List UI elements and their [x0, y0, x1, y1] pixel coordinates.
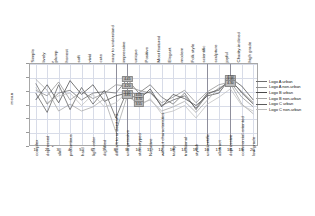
bottom-category-label: slim — [58, 148, 63, 156]
top-category-labels: Simplelivelyplumphonestsoftvividcuteeasy… — [29, 0, 258, 63]
series-line — [36, 88, 254, 118]
legend-color-swatch — [256, 81, 267, 82]
top-category-label: modern — [179, 47, 184, 62]
bottom-category-label: stereotyped — [138, 133, 143, 156]
legend-item-label: Logo C urban — [269, 102, 293, 106]
legend-color-swatch — [256, 109, 267, 110]
legend-item[interactable]: Logo C non-urban — [256, 107, 314, 113]
data-value-label: 3.85 — [122, 93, 132, 99]
top-category-label: unique — [133, 49, 138, 62]
data-value-label: 4.20 — [122, 83, 132, 89]
top-category-label: Elegant — [168, 47, 173, 62]
legend-item-label: Logo A non-urban — [269, 85, 301, 89]
top-category-label: lively — [42, 52, 47, 62]
top-category-label: sculpture — [213, 44, 218, 62]
bottom-category-label: tacky — [172, 146, 177, 156]
plot-area: 4.454.203.953.854.053.703.554.504.404.30 — [29, 63, 258, 146]
top-category-label: high grade — [248, 41, 253, 62]
top-category-label: scientific — [202, 45, 207, 62]
top-category-label: joyful — [225, 52, 230, 62]
legend-item-label: Logo C non-urban — [269, 108, 301, 112]
legend: Logo A urbanLogo A non-urbanLogo B urban… — [256, 79, 314, 113]
bottom-category-label: depressive — [229, 135, 234, 156]
bottom-category-labels: 1234567891011121314151617181920complexde… — [29, 147, 258, 216]
top-category-label: easy to understand — [110, 25, 115, 62]
bottom-category-label: depressed — [46, 135, 51, 156]
bottom-category-label: without characteristics — [161, 113, 166, 156]
legend-color-swatch — [256, 92, 267, 93]
series-lines — [30, 64, 258, 146]
legend-item-label: Logo A urban — [269, 80, 293, 84]
series-line — [36, 79, 254, 118]
legend-item-label: Logo B non-urban — [269, 97, 301, 101]
top-category-label: Most featured — [156, 35, 161, 62]
top-category-label: Charity-inclined — [236, 32, 241, 62]
bottom-category-label: Negative — [149, 139, 154, 156]
bottom-category-label: low grade — [252, 137, 257, 156]
bottom-category-label: dignified — [103, 140, 108, 156]
top-category-label: cute — [99, 54, 104, 62]
data-value-label: 4.45 — [122, 76, 132, 82]
data-value-label: 4.30 — [225, 80, 235, 86]
top-category-label: Folk style — [191, 43, 196, 62]
bottom-category-label: light color — [92, 137, 97, 156]
top-category-label: honest — [65, 49, 70, 62]
legend-color-swatch — [256, 104, 267, 105]
top-category-label: impressive — [122, 41, 127, 62]
top-category-label: soft — [76, 55, 81, 62]
data-value-label: 3.55 — [134, 101, 144, 107]
bottom-category-label: pretentious — [69, 134, 74, 156]
legend-item-label: Logo B urban — [269, 91, 293, 95]
legend-color-swatch — [256, 87, 267, 88]
bottom-category-label: stylish — [195, 144, 200, 156]
bottom-category-label: unimpressive — [126, 130, 131, 156]
bottom-category-label: traditional — [184, 137, 189, 156]
y-axis-title: mean — [9, 79, 14, 119]
top-category-label: Positive — [145, 47, 150, 62]
bottom-category-label: difficult to understand — [115, 114, 120, 156]
bottom-category-label: commercial-oriented — [241, 116, 246, 156]
top-category-label: vivid — [87, 53, 92, 62]
bottom-category-label: abstract — [218, 140, 223, 156]
legend-color-swatch — [256, 98, 267, 99]
bottom-category-label: unscientific — [206, 134, 211, 156]
bottom-category-label: complex — [35, 140, 40, 156]
top-category-label: Simple — [30, 49, 35, 62]
line-chart: mean 22.533.544.55 Simplelivelyplumphone… — [0, 0, 315, 216]
bottom-category-label: hard — [81, 147, 86, 156]
top-category-label: plump — [53, 50, 58, 62]
